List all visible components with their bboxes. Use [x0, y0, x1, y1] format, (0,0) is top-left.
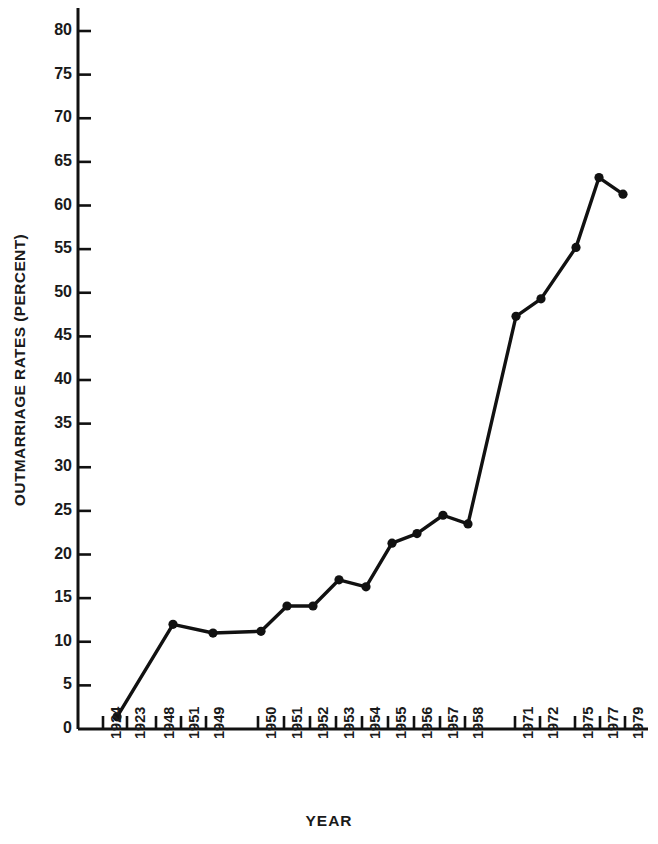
data-point: [256, 627, 265, 636]
data-point: [536, 294, 545, 303]
x-tick-label: 1958: [471, 707, 486, 739]
chart-figure: OUTMARRIAGE RATES (PERCENT) 051015202530…: [0, 0, 658, 844]
x-tick-label: 1953: [342, 707, 357, 739]
x-tick-label: 1971: [521, 707, 536, 739]
x-tick-label: 1957: [446, 707, 461, 739]
x-tick-label: 1949: [212, 707, 227, 739]
data-point: [463, 519, 472, 528]
x-tick-label: 1956: [420, 707, 435, 739]
data-point: [618, 190, 627, 199]
data-point: [168, 620, 177, 629]
data-point: [571, 243, 580, 252]
y-axis-tick-marks: [78, 31, 91, 685]
x-tick-label: 1979: [631, 707, 646, 739]
data-point: [208, 628, 217, 637]
data-point: [511, 312, 520, 321]
data-point: [438, 511, 447, 520]
x-tick-label: 1951: [290, 707, 305, 739]
x-tick-label: 1924: [109, 707, 124, 739]
data-point: [334, 575, 343, 584]
x-tick-label: 1977: [606, 707, 621, 739]
x-tick-label: 1948: [162, 707, 177, 739]
data-point: [387, 539, 396, 548]
x-tick-label: 1972: [546, 707, 561, 739]
data-markers: [112, 173, 627, 721]
data-point: [412, 529, 421, 538]
x-tick-label: 1950: [264, 707, 279, 739]
x-axis-label: YEAR: [0, 812, 658, 830]
x-tick-label: 1975: [581, 707, 596, 739]
data-point: [282, 601, 291, 610]
x-tick-label: 1923: [133, 707, 148, 739]
x-tick-label: 1951: [187, 707, 202, 739]
data-point: [308, 601, 317, 610]
x-tick-label: 1952: [316, 707, 331, 739]
x-tick-label: 1954: [368, 707, 383, 739]
data-point: [361, 582, 370, 591]
data-point: [594, 173, 603, 182]
data-line: [117, 178, 623, 717]
x-tick-label: 1955: [394, 707, 409, 739]
